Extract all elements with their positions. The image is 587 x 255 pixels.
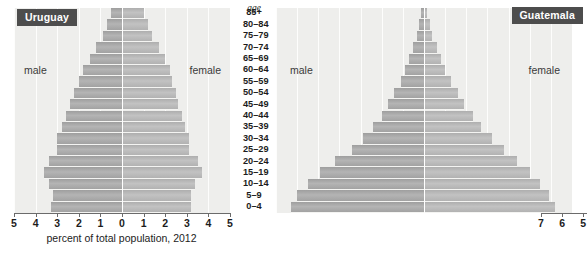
age-label: 55–59 (243, 76, 265, 86)
axis-tick-label: 5 (227, 217, 233, 229)
bar-male (320, 167, 424, 178)
axis-tick-label: 3 (54, 217, 60, 229)
axis-tick-label: 5 (580, 217, 586, 229)
axis-tick-label: 4 (33, 217, 39, 229)
x-axis-uruguay: 54321012345 (14, 213, 230, 214)
bar-male (111, 8, 122, 19)
bar-female (424, 54, 441, 65)
zero-line (424, 8, 425, 213)
age-label: 85+ (243, 7, 265, 17)
bar-male (83, 65, 122, 76)
bar-female (122, 31, 152, 42)
bar-female (122, 202, 191, 213)
bar-female (424, 42, 437, 53)
axis-tick-label: 7 (538, 217, 544, 229)
x-axis-title-guatemala: percent of total population, 2012 (530, 232, 587, 244)
age-label: 40–44 (243, 110, 265, 120)
male-label-uruguay: male (24, 64, 47, 76)
bar-female (424, 202, 555, 213)
age-label: 20–24 (243, 156, 265, 166)
bar-male (409, 54, 424, 65)
bar-female (122, 65, 170, 76)
bar-male (51, 202, 122, 213)
age-label: 0–4 (243, 201, 265, 211)
bar-male (49, 179, 122, 190)
bar-female (122, 76, 172, 87)
bar-male (74, 88, 122, 99)
age-label: 60–64 (243, 64, 265, 74)
bar-male (388, 99, 424, 110)
bar-male (49, 156, 122, 167)
bar-male (363, 133, 424, 144)
bar-male (44, 167, 122, 178)
age-label: 80–84 (243, 19, 265, 29)
bar-male (308, 179, 424, 190)
age-label: 65–69 (243, 53, 265, 63)
bar-male (53, 190, 122, 201)
bar-female (122, 111, 182, 122)
bar-male (57, 133, 122, 144)
bar-male (417, 31, 424, 42)
bar-female (122, 19, 148, 30)
country-badge-uruguay: Uruguay (17, 9, 77, 26)
bar-male (79, 76, 122, 87)
bar-male (62, 122, 122, 133)
bar-male (297, 190, 424, 201)
age-label: 25–29 (243, 144, 265, 154)
axis-tick-label: 3 (184, 217, 190, 229)
bar-female (424, 65, 445, 76)
age-label-column: age 85+80–8475–7970–7465–6960–6455–5950–… (243, 0, 265, 255)
bar-female (122, 145, 189, 156)
bar-female (424, 133, 492, 144)
zero-line (122, 8, 123, 213)
female-label-uruguay: female (189, 64, 221, 76)
age-label: 50–54 (243, 87, 265, 97)
bar-male (70, 99, 122, 110)
bar-female (424, 190, 549, 201)
bar-female (424, 167, 530, 178)
axis-tick-label: 1 (141, 217, 147, 229)
bar-male (352, 145, 424, 156)
age-label: 75–79 (243, 30, 265, 40)
bar-male (401, 76, 424, 87)
male-label-guatemala: male (290, 64, 313, 76)
bar-female (424, 99, 464, 110)
axis-tick-label: 2 (162, 217, 168, 229)
bar-male (335, 156, 424, 167)
age-label: 35–39 (243, 121, 265, 131)
age-label: 45–49 (243, 99, 265, 109)
axis-tick-label: 4 (205, 217, 211, 229)
population-pyramid-figure: male female Uruguay 54321012345 percent … (0, 0, 587, 255)
bar-female (122, 156, 198, 167)
bar-female (122, 167, 202, 178)
age-label: 30–34 (243, 133, 265, 143)
bar-female (424, 122, 481, 133)
bar-male (405, 65, 424, 76)
bar-male (382, 111, 424, 122)
bar-male (103, 31, 122, 42)
bar-female (424, 76, 451, 87)
bar-female (122, 42, 159, 53)
bar-male (373, 122, 424, 133)
bar-female (122, 122, 185, 133)
bar-male (66, 111, 122, 122)
bar-female (424, 179, 540, 190)
female-label-guatemala: female (528, 64, 560, 76)
plot-area-guatemala: male female (276, 8, 572, 213)
bar-female (424, 111, 473, 122)
age-label: 5–9 (243, 190, 265, 200)
bar-female (122, 54, 165, 65)
bar-female (424, 156, 517, 167)
bar-female (122, 190, 191, 201)
axis-tick-label: 1 (97, 217, 103, 229)
bar-female (122, 88, 176, 99)
bar-male (57, 145, 122, 156)
bar-male (107, 19, 122, 30)
bar-female (122, 133, 189, 144)
bar-female (122, 8, 144, 19)
bar-male (96, 42, 122, 53)
bar-female (122, 179, 195, 190)
x-axis-title-uruguay: percent of total population, 2012 (0, 232, 243, 244)
panel-guatemala: male female Guatemala 765432101234567 pe… (265, 0, 587, 255)
x-axis-guatemala: 765432101234567 (541, 213, 587, 214)
